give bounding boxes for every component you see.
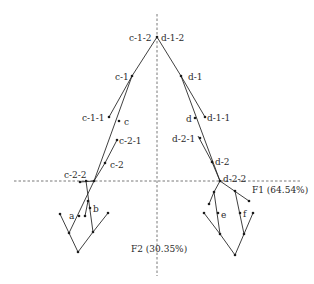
node-c-2-1 bbox=[116, 139, 119, 142]
label-d-2-1: d-2-1 bbox=[172, 134, 195, 144]
node-right-mid-r bbox=[243, 233, 246, 236]
label-d: d bbox=[186, 114, 192, 124]
node-d-sub1 bbox=[213, 191, 216, 194]
f1-axis-label: F1 (64.54%) bbox=[252, 185, 308, 195]
node-right-root bbox=[234, 254, 237, 257]
node-left-mid bbox=[68, 232, 71, 235]
label-f: f bbox=[243, 209, 247, 219]
node-c-2 bbox=[104, 162, 107, 165]
node-d-2-1 bbox=[199, 137, 202, 140]
node-a2 bbox=[84, 215, 87, 218]
node-c-1-1 bbox=[108, 116, 111, 119]
node-left-leaf bbox=[59, 213, 62, 216]
biplot-diagram: c-1-2 d-1-2 c-1 d-1 c-1-1 c d d-1-1 c-2-… bbox=[0, 0, 314, 284]
node-d-sub4 bbox=[248, 200, 251, 203]
node-c-2-2c bbox=[93, 180, 96, 183]
node-right-leaf-r bbox=[252, 212, 255, 215]
branch-c bbox=[60, 37, 157, 252]
label-d-1-1: d-1-1 bbox=[207, 113, 230, 123]
node-b bbox=[89, 207, 92, 210]
label-d-2: d-2 bbox=[215, 157, 230, 167]
label-c: c bbox=[124, 117, 129, 127]
label-c-1-2: c-1-2 bbox=[129, 33, 152, 43]
node-junction-ab bbox=[87, 200, 90, 203]
f2-axis-label: F2 (30.35%) bbox=[131, 244, 187, 254]
node-c-2-2 bbox=[79, 181, 82, 184]
node-d-1 bbox=[180, 75, 183, 78]
node-right-leaf-l bbox=[203, 212, 206, 215]
label-c-1-1: c-1-1 bbox=[82, 113, 105, 123]
label-c-1: c-1 bbox=[115, 72, 129, 82]
label-c-2-1: c-2-1 bbox=[119, 136, 142, 146]
label-c-2-2: c-2-2 bbox=[64, 170, 87, 180]
label-d-1: d-1 bbox=[188, 72, 203, 82]
node-e bbox=[217, 212, 220, 215]
label-c-2: c-2 bbox=[110, 160, 124, 170]
node-d-2-2 bbox=[219, 180, 222, 183]
node-a bbox=[78, 215, 81, 218]
node-f bbox=[239, 212, 242, 215]
node-right-mid bbox=[92, 231, 95, 234]
label-b: b bbox=[93, 204, 99, 214]
node-c-2-2b bbox=[85, 180, 88, 183]
label-d-1-2: d-1-2 bbox=[161, 33, 184, 43]
node-left-root bbox=[77, 251, 80, 254]
node-d-sub2 bbox=[234, 190, 237, 193]
label-a: a bbox=[69, 211, 75, 221]
label-d-2-2: d-2-2 bbox=[223, 174, 246, 184]
node-d bbox=[194, 117, 197, 120]
node-c bbox=[118, 120, 121, 123]
node-right-mid-l bbox=[219, 233, 222, 236]
node-c-1 bbox=[131, 75, 134, 78]
node-d-sub3 bbox=[208, 203, 211, 206]
node-d-1-1 bbox=[204, 116, 207, 119]
node-d-2 bbox=[211, 161, 214, 164]
node-right-leaf bbox=[107, 212, 110, 215]
branch-d bbox=[157, 37, 253, 255]
label-e: e bbox=[221, 210, 226, 220]
